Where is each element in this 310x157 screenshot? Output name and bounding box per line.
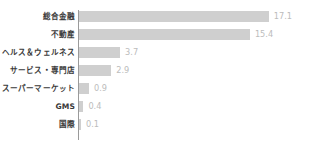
bar-row: 国際0.1 [0,115,310,133]
category-label: 総合金融 [0,12,75,21]
bar-and-value: 0.9 [79,83,107,94]
bar-and-value: 15.4 [79,29,273,40]
bar [79,101,83,112]
bar [79,11,269,22]
category-label: 不動産 [0,30,75,39]
bar-and-value: 17.1 [79,11,292,22]
bar-and-value: 0.4 [79,101,101,112]
bar-value-label: 0.4 [88,102,101,111]
bar-value-label: 2.9 [116,66,129,75]
category-label: サービス・専門店 [0,66,75,75]
bar-row: サービス・専門店2.9 [0,61,310,79]
bar-value-label: 3.7 [125,48,138,57]
bar-value-label: 0.9 [94,84,107,93]
bar-value-label: 17.1 [274,12,292,21]
bar [79,29,250,40]
bar-row: ヘルス＆ウェルネス3.7 [0,43,310,61]
bar-and-value: 0.1 [79,119,99,130]
category-label: ヘルス＆ウェルネス [0,48,75,57]
bar-row: スーパーマーケット0.9 [0,79,310,97]
category-label: GMS [0,102,75,111]
category-label: スーパーマーケット [0,84,75,93]
bar-and-value: 3.7 [79,47,138,58]
bar-value-label: 15.4 [255,30,273,39]
bar-row: 総合金融17.1 [0,7,310,25]
bar [79,65,111,76]
category-label: 国際 [0,120,75,129]
bar-row: GMS0.4 [0,97,310,115]
bar-chart: 総合金融17.1不動産15.4ヘルス＆ウェルネス3.7サービス・専門店2.9スー… [0,0,310,157]
bar-value-label: 0.1 [86,120,99,129]
bar-row: 不動産15.4 [0,25,310,43]
bar-and-value: 2.9 [79,65,129,76]
bar [79,47,120,58]
plot-area: 総合金融17.1不動産15.4ヘルス＆ウェルネス3.7サービス・専門店2.9スー… [0,0,310,157]
bar [79,83,89,94]
bar [79,119,81,130]
